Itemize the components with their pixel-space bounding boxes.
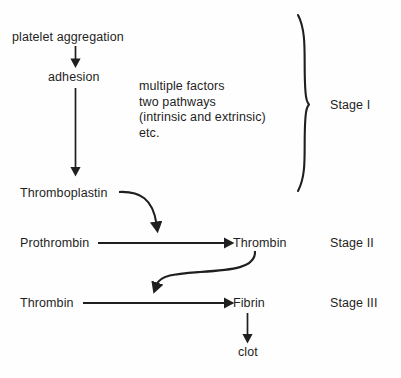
node-label-prothrombin: Prothrombin bbox=[20, 236, 89, 250]
node-label-thrombin-stage-two: Thrombin bbox=[233, 236, 287, 250]
node-label-platelet-aggregation: platelet aggregation bbox=[12, 30, 124, 44]
node-label-clot: clot bbox=[238, 345, 258, 359]
stage-one-brace bbox=[298, 15, 309, 191]
node-label-fibrin: Fibrin bbox=[233, 296, 265, 310]
arrow-thromboplastin-curved bbox=[119, 192, 157, 224]
coagulation-cascade-diagram: platelet aggregation adhesion multiple f… bbox=[0, 0, 401, 378]
node-label-adhesion: adhesion bbox=[48, 70, 100, 84]
annotation-multiple-factors: multiple factors two pathways (intrinsic… bbox=[139, 79, 266, 141]
stage-label-one: Stage I bbox=[330, 98, 370, 112]
stage-label-three: Stage III bbox=[330, 296, 377, 310]
stage-label-two: Stage II bbox=[330, 236, 374, 250]
node-label-thromboplastin: Thromboplastin bbox=[20, 186, 108, 200]
arrow-thrombin-curved-s bbox=[157, 251, 256, 285]
node-label-thrombin-stage-three: Thrombin bbox=[20, 296, 74, 310]
